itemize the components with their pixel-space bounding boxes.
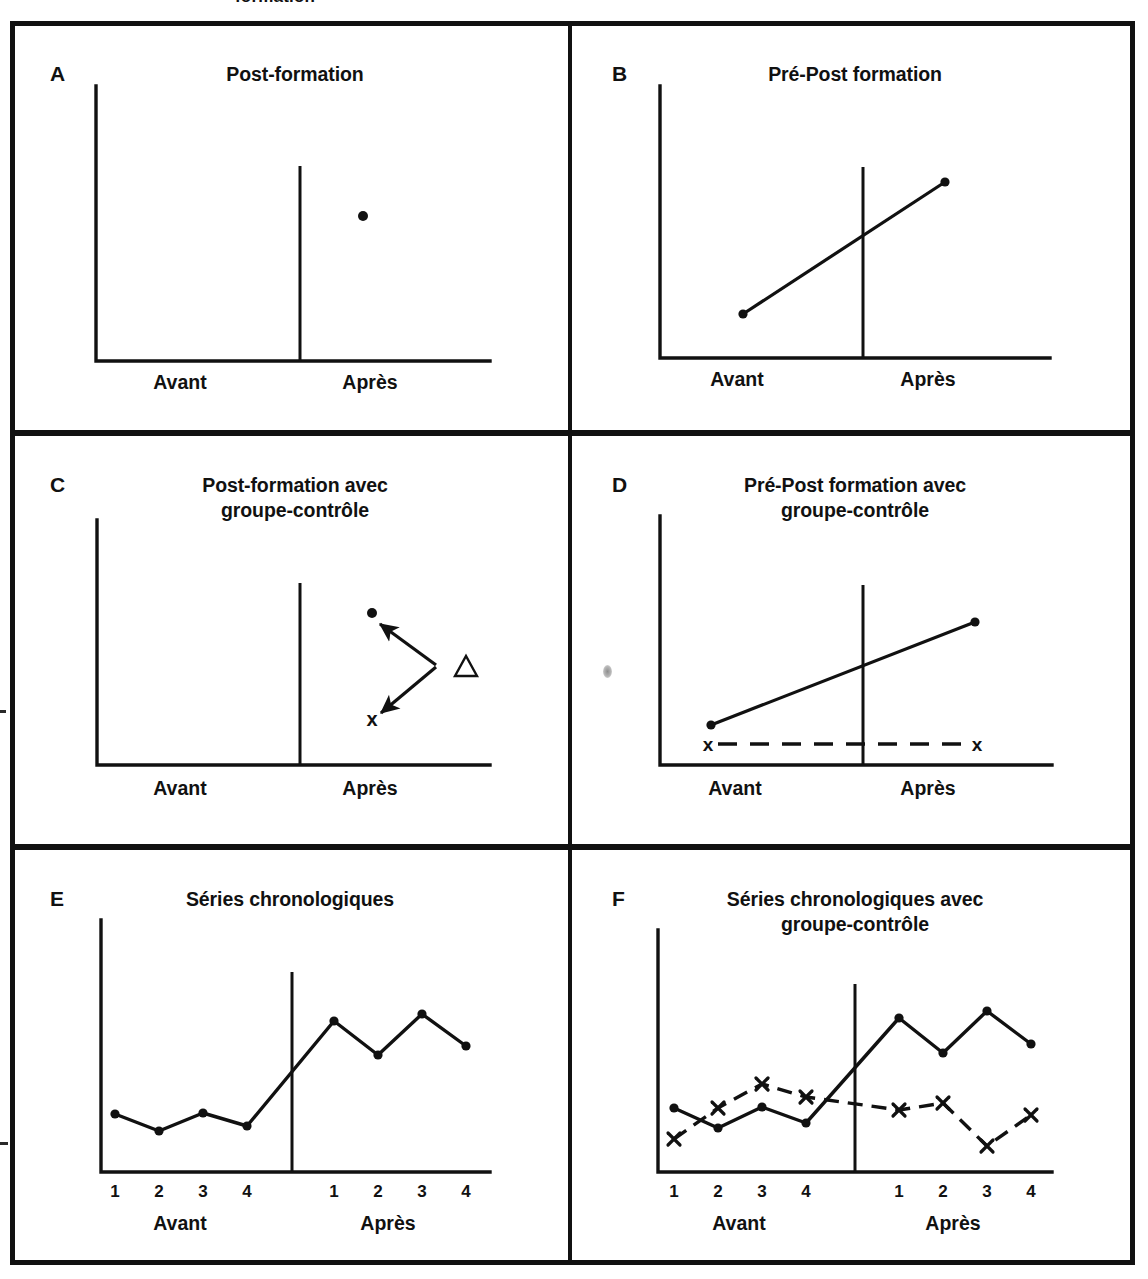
- panel-c-xlabel-after: Après: [315, 777, 425, 800]
- panel-b-plot: [580, 26, 1133, 430]
- panel-d-xlabel-before: Avant: [680, 777, 790, 800]
- panel-f-tick-3a: 3: [752, 1182, 772, 1202]
- panel-a-plot: [15, 26, 568, 430]
- figure-page: formation A Post-formation Avant Après B…: [0, 0, 1148, 1279]
- panel-e-tick-4a: 4: [237, 1182, 257, 1202]
- panel-f-tick-3b: 3: [977, 1182, 997, 1202]
- panel-e-tick-1b: 1: [324, 1182, 344, 1202]
- panel-b-xlabel-before: Avant: [682, 368, 792, 391]
- svg-text:x: x: [972, 734, 983, 755]
- panel-c-plot: x: [15, 440, 568, 840]
- panel-c: C Post-formation avec groupe-contrôle x …: [15, 440, 568, 840]
- panel-e-tick-2b: 2: [368, 1182, 388, 1202]
- panel-e-tick-1a: 1: [105, 1182, 125, 1202]
- panel-f-xlabel-after: Après: [898, 1212, 1008, 1235]
- panel-a-xlabel-after: Après: [315, 371, 425, 394]
- panel-c-xlabel-before: Avant: [125, 777, 235, 800]
- panel-f-tick-1b: 1: [889, 1182, 909, 1202]
- grid-vertical-divider: [568, 21, 572, 1265]
- panel-d-plot: x x: [580, 440, 1133, 840]
- panel-d: D Pré-Post formation avec groupe-contrôl…: [580, 440, 1133, 840]
- panel-f-tick-4a: 4: [796, 1182, 816, 1202]
- panel-e-tick-3b: 3: [412, 1182, 432, 1202]
- panel-e-tick-4b: 4: [456, 1182, 476, 1202]
- panel-b: B Pré-Post formation Avant Après: [580, 26, 1133, 430]
- panel-f-tick-2a: 2: [708, 1182, 728, 1202]
- svg-text:x: x: [366, 708, 377, 730]
- panel-f-tick-2b: 2: [933, 1182, 953, 1202]
- svg-text:x: x: [703, 734, 714, 755]
- cropped-caption-text: formation: [235, 0, 315, 5]
- panel-a-xlabel-before: Avant: [125, 371, 235, 394]
- panel-f-xlabel-before: Avant: [684, 1212, 794, 1235]
- grid-horizontal-divider-1: [10, 430, 1135, 436]
- grid-horizontal-divider-2: [10, 844, 1135, 850]
- panel-e: E Séries chronologiques 1 2 3 4 1 2 3 4 …: [15, 852, 568, 1262]
- panel-e-tick-2a: 2: [149, 1182, 169, 1202]
- panel-f-tick-4b: 4: [1021, 1182, 1041, 1202]
- panel-e-xlabel-after: Après: [333, 1212, 443, 1235]
- panel-f: F Séries chronologiques avec groupe-cont…: [580, 852, 1133, 1262]
- panel-e-tick-3a: 3: [193, 1182, 213, 1202]
- panel-a: A Post-formation Avant Après: [15, 26, 568, 430]
- panel-f-tick-1a: 1: [664, 1182, 684, 1202]
- scan-artifact-left-2: [0, 1142, 8, 1145]
- panel-f-plot: [580, 852, 1133, 1262]
- cropped-caption-top: formation: [0, 0, 1148, 5]
- panel-e-plot: [15, 852, 568, 1262]
- panel-b-xlabel-after: Après: [873, 368, 983, 391]
- panel-d-xlabel-after: Après: [873, 777, 983, 800]
- scan-artifact-left-1: [0, 710, 6, 713]
- panel-e-xlabel-before: Avant: [125, 1212, 235, 1235]
